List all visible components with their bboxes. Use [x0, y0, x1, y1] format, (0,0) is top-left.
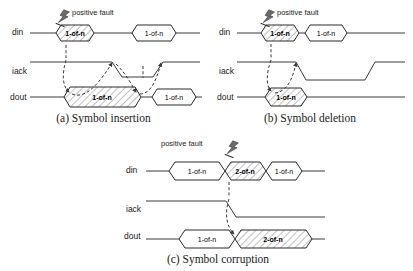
causal-arc-b-1 — [267, 60, 271, 91]
din-symbol-2-label-b: 1-of-n — [317, 30, 335, 37]
panel-symbol-deletion: din iack dout positive fault — [207, 0, 413, 135]
dout-symbol-1-label-b: 1-of-n — [276, 94, 295, 101]
din-symbol-1-label-c: 1-of-n — [188, 168, 206, 175]
iack-waveform-c — [146, 201, 325, 217]
panel-b-caption: (b) Symbol deletion — [207, 112, 413, 124]
panel-c-waveforms: 1-of-n 2-of-n 1-of-n 1-of-n 2-of-n — [103, 135, 333, 271]
lightning-bolt-icon-c — [225, 140, 240, 158]
panel-symbol-corruption: din iack dout positive fault — [103, 135, 333, 271]
panel-symbol-insertion: din iack dout positive fault — [0, 0, 207, 135]
din-symbol-1-label-b: 1-of-n — [270, 30, 289, 37]
dout-symbol-1-label-a: 1-of-n — [92, 94, 111, 101]
lightning-bolt-icon-a — [56, 9, 71, 27]
fault-timing-figure: din iack dout positive fault — [0, 0, 413, 271]
din-symbol-1-label-a: 1-of-n — [65, 30, 84, 37]
din-symbol-2-label-c: 2-of-n — [235, 168, 254, 175]
din-symbol-2-label-a: 1-of-n — [145, 30, 163, 37]
panel-a-caption: (a) Symbol insertion — [0, 112, 207, 124]
iack-waveform-a — [30, 62, 200, 77]
causal-arc-a-1 — [63, 60, 69, 92]
iack-waveform-b — [237, 62, 405, 80]
dout-symbol-1-label-c: 1-of-n — [198, 236, 216, 243]
panel-c-caption: (c) Symbol corruption — [103, 253, 333, 265]
dout-symbol-2-label-a: 1-of-n — [165, 94, 183, 101]
din-symbol-3-label-c: 1-of-n — [275, 168, 293, 175]
lightning-bolt-icon-b — [261, 9, 276, 27]
dout-symbol-2-label-c: 2-of-n — [263, 236, 282, 243]
